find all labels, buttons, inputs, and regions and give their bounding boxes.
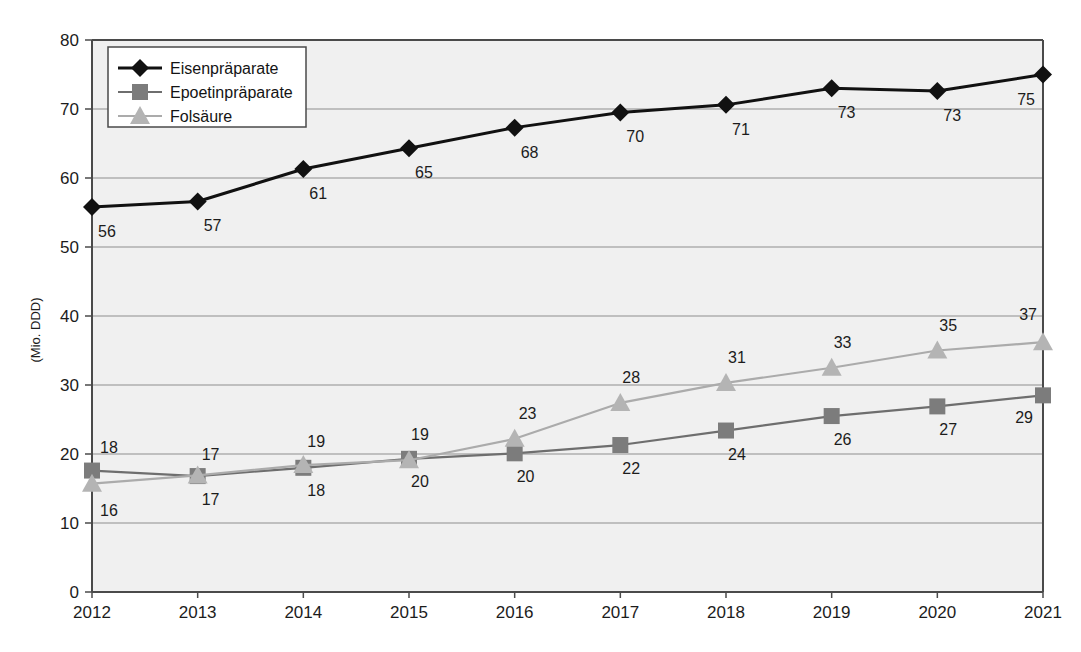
data-point-marker <box>929 398 945 414</box>
legend-item-1[interactable]: Eisenpräparate <box>118 59 279 77</box>
data-point-marker <box>132 84 148 100</box>
x-tick-label: 2020 <box>918 603 956 622</box>
data-label: 17 <box>202 491 220 508</box>
data-label: 23 <box>519 405 537 422</box>
legend-label: Epoetinpräparate <box>170 84 293 101</box>
data-label: 37 <box>1019 306 1037 323</box>
y-tick-label: 10 <box>60 514 79 533</box>
y-axis-title: (Mio. DDD) <box>28 298 43 363</box>
y-tick-label: 40 <box>60 307 79 326</box>
data-point-marker <box>612 437 628 453</box>
data-label: 70 <box>626 128 644 145</box>
data-point-marker <box>1035 387 1051 403</box>
data-label: 18 <box>100 439 118 456</box>
data-label: 68 <box>521 144 539 161</box>
x-tick-label: 2013 <box>179 603 217 622</box>
data-label: 75 <box>1017 91 1035 108</box>
data-label: 33 <box>834 334 852 351</box>
legend-label: Folsäure <box>170 108 232 125</box>
legend-item-2[interactable]: Epoetinpräparate <box>118 84 293 101</box>
data-label: 19 <box>307 433 325 450</box>
chart-container: 01020304050607080 2012201320142015201620… <box>0 0 1081 652</box>
y-tick-label: 50 <box>60 238 79 257</box>
data-label: 19 <box>411 426 429 443</box>
data-label: 31 <box>728 349 746 366</box>
x-tick-label: 2012 <box>73 603 111 622</box>
x-tick-label: 2018 <box>707 603 745 622</box>
y-tick-label: 20 <box>60 445 79 464</box>
x-tick-label: 2016 <box>496 603 534 622</box>
y-tick-label: 60 <box>60 169 79 188</box>
data-label: 73 <box>943 107 961 124</box>
data-label: 65 <box>415 164 433 181</box>
data-label: 16 <box>100 502 118 519</box>
x-tick-label: 2015 <box>390 603 428 622</box>
x-tick-label: 2019 <box>813 603 851 622</box>
data-point-marker <box>824 408 840 424</box>
y-tick-label: 30 <box>60 376 79 395</box>
data-label: 20 <box>517 468 535 485</box>
data-label: 29 <box>1015 409 1033 426</box>
y-tick-label: 0 <box>70 583 79 602</box>
line-chart: 01020304050607080 2012201320142015201620… <box>0 0 1081 652</box>
data-label: 73 <box>838 104 856 121</box>
data-label: 61 <box>309 185 327 202</box>
chart-legend: EisenpräparateEpoetinpräparateFolsäure <box>108 47 306 127</box>
data-label: 18 <box>307 482 325 499</box>
data-label: 57 <box>204 217 222 234</box>
data-label: 26 <box>834 431 852 448</box>
data-label: 56 <box>98 223 116 240</box>
data-label: 28 <box>622 369 640 386</box>
data-label: 71 <box>732 121 750 138</box>
data-label: 24 <box>728 446 746 463</box>
x-tick-label: 2014 <box>284 603 322 622</box>
data-label: 22 <box>622 460 640 477</box>
data-label: 35 <box>939 317 957 334</box>
data-label: 20 <box>411 473 429 490</box>
y-tick-label: 80 <box>60 31 79 50</box>
data-point-marker <box>507 445 523 461</box>
data-label: 17 <box>202 446 220 463</box>
data-label: 27 <box>939 421 957 438</box>
x-tick-label: 2021 <box>1024 603 1062 622</box>
data-point-marker <box>718 423 734 439</box>
y-tick-label: 70 <box>60 100 79 119</box>
x-tick-label: 2017 <box>601 603 639 622</box>
legend-label: Eisenpräparate <box>170 60 279 77</box>
